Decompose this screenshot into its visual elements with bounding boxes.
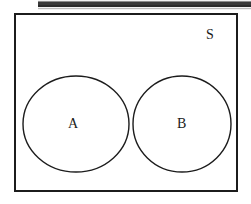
set-a-label: A (68, 117, 78, 131)
venn-diagram-figure: S A B (0, 0, 251, 204)
universal-set-label: S (206, 28, 214, 42)
set-b-label: B (177, 117, 186, 131)
